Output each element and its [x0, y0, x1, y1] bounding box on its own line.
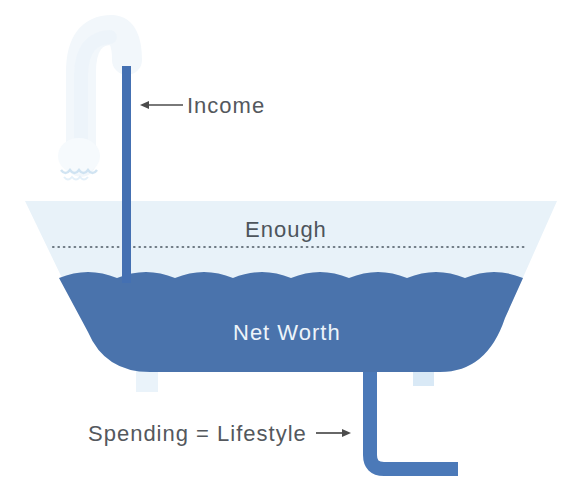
- income-label: Income: [187, 93, 265, 118]
- spending-arrow-head-icon: [342, 429, 351, 437]
- spending-label: Spending = Lifestyle: [88, 421, 307, 446]
- diagram-svg: Enough Net Worth Income Spending = Lifes…: [0, 0, 584, 503]
- spending-callout: Spending = Lifestyle: [88, 421, 351, 446]
- faucet-icon: [58, 30, 127, 180]
- net-worth-label: Net Worth: [233, 320, 341, 345]
- faucet-drip-waves-2: [64, 177, 88, 180]
- bathtub-diagram: Enough Net Worth Income Spending = Lifes…: [0, 0, 584, 503]
- income-arrow-head-icon: [140, 101, 149, 109]
- income-stream: [122, 66, 131, 283]
- income-callout: Income: [140, 93, 265, 118]
- enough-label: Enough: [245, 217, 327, 242]
